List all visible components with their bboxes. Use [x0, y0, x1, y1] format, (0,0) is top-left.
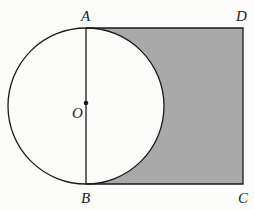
label-b: B: [81, 190, 90, 206]
label-o: O: [72, 105, 83, 121]
geometry-diagram: A D O B C: [0, 0, 254, 210]
label-c: C: [238, 190, 249, 206]
label-a: A: [80, 8, 91, 24]
center-point-o: [84, 101, 89, 106]
label-d: D: [235, 8, 247, 24]
